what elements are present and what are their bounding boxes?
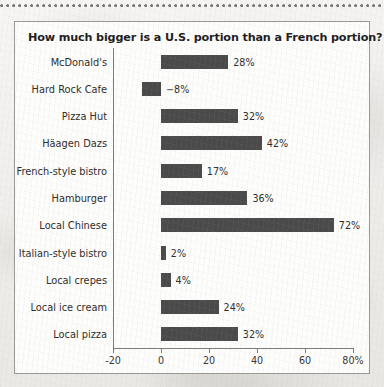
bar-row: Local ice cream24% — [15, 293, 371, 320]
bar-value-label: 28% — [233, 56, 254, 67]
bar — [161, 109, 238, 123]
bar — [161, 218, 334, 232]
plot-area: McDonald's28%Hard Rock Cafe−8%Pizza Hut3… — [15, 48, 371, 375]
bar-value-label: 32% — [243, 329, 264, 340]
dotted-rule-decoration — [0, 4, 384, 8]
bar-value-label: −8% — [166, 83, 189, 94]
bar — [161, 246, 166, 260]
axis-tick — [161, 348, 162, 353]
category-label: French-style bistro — [17, 165, 107, 176]
category-label: Häagen Dazs — [42, 138, 107, 149]
bar-row: Hard Rock Cafe−8% — [15, 75, 371, 102]
bar-row: French-style bistro17% — [15, 157, 371, 184]
axis-tick-label: 60 — [299, 355, 311, 366]
bar-value-label: 42% — [267, 138, 288, 149]
page-background: How much bigger is a U.S. portion than a… — [0, 0, 384, 387]
bar — [142, 82, 161, 96]
chart-title: How much bigger is a U.S. portion than a… — [28, 31, 382, 44]
axis-tick-label: 80% — [342, 355, 363, 366]
bar — [161, 327, 238, 341]
axis-tick — [353, 348, 354, 353]
bar-value-label: 2% — [171, 247, 186, 258]
category-label: Hamburger — [52, 192, 107, 203]
bar-row: Italian-style bistro2% — [15, 239, 371, 266]
category-label: Local crepes — [46, 274, 107, 285]
bar-value-label: 24% — [224, 302, 245, 313]
bar-value-label: 36% — [252, 192, 273, 203]
axis-tick-label: -20 — [105, 355, 121, 366]
category-label: Pizza Hut — [62, 111, 107, 122]
bar-row: Pizza Hut32% — [15, 103, 371, 130]
axis-tick — [209, 348, 210, 353]
category-label: Local Chinese — [39, 220, 107, 231]
bar-value-label: 17% — [207, 165, 228, 176]
category-label: Hard Rock Cafe — [32, 83, 107, 94]
category-label: Italian-style bistro — [19, 247, 107, 258]
bar-row: McDonald's28% — [15, 48, 371, 75]
bar-value-label: 4% — [176, 274, 191, 285]
axis-tick-label: 0 — [158, 355, 164, 366]
bar — [161, 273, 171, 287]
bar — [161, 164, 202, 178]
category-label: McDonald's — [51, 56, 107, 67]
bar — [161, 136, 262, 150]
bar — [161, 300, 219, 314]
category-label: Local ice cream — [30, 302, 107, 313]
bar-row: Local Chinese72% — [15, 212, 371, 239]
bar-row: Local crepes4% — [15, 266, 371, 293]
bar-row: Häagen Dazs42% — [15, 130, 371, 157]
bar — [161, 191, 247, 205]
bar — [161, 55, 228, 69]
axis-tick-label: 20 — [203, 355, 215, 366]
bar-row: Local pizza32% — [15, 321, 371, 348]
axis-tick-label: 40 — [251, 355, 263, 366]
bar-value-label: 72% — [339, 220, 360, 231]
bar-value-label: 32% — [243, 111, 264, 122]
value-axis-line — [113, 348, 353, 349]
category-label: Local pizza — [53, 329, 107, 340]
axis-tick — [305, 348, 306, 353]
chart-card: How much bigger is a U.S. portion than a… — [14, 21, 370, 374]
bar-row: Hamburger36% — [15, 184, 371, 211]
axis-tick — [257, 348, 258, 353]
axis-tick — [113, 348, 114, 353]
